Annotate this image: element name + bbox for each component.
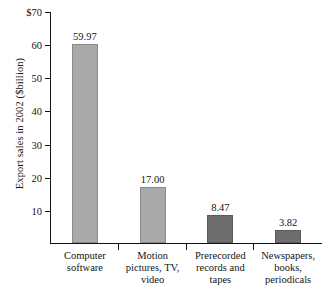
- category-labels: ComputersoftwareMotionpictures, TV,video…: [51, 250, 323, 297]
- bar-group[interactable]: 59.97: [51, 12, 119, 243]
- category-label-line: video: [119, 274, 187, 286]
- y-axis-tick-label: 10: [32, 205, 43, 216]
- category-label: Prerecordedrecords andtapes: [187, 250, 255, 287]
- category-label-line: Prerecorded: [187, 250, 255, 262]
- bar-value-label: 17.00: [141, 174, 165, 185]
- category-label-line: tapes: [187, 274, 255, 286]
- bar-value-label: 3.82: [279, 217, 297, 228]
- bar-chart: Export sales in 2002 ($billion) 10203040…: [0, 0, 325, 297]
- bars-layer: 59.9717.008.473.82: [51, 12, 322, 243]
- category-label-line: pictures, TV,: [119, 262, 187, 274]
- y-axis-tick-label: $70: [26, 7, 42, 18]
- category-label: Newspapers,books,periodicals: [254, 250, 322, 287]
- category-label-line: books,: [254, 262, 322, 274]
- category-label-line: Newspapers,: [254, 250, 322, 262]
- bar-group[interactable]: 8.47: [187, 12, 255, 243]
- bar-value-label: 8.47: [211, 202, 229, 213]
- bar-value-label: 59.97: [73, 31, 97, 42]
- y-axis-tick-label: 40: [32, 106, 43, 117]
- bar[interactable]: [207, 215, 233, 243]
- bar[interactable]: [275, 230, 301, 243]
- category-label-line: software: [51, 262, 119, 274]
- y-axis-tick-label: 20: [32, 172, 43, 183]
- category-label: Computersoftware: [51, 250, 119, 274]
- category-label-line: Motion: [119, 250, 187, 262]
- category-label: Motionpictures, TV,video: [119, 250, 187, 287]
- category-label-line: periodicals: [254, 274, 322, 286]
- bar[interactable]: [140, 187, 166, 243]
- y-axis-title: Export sales in 2002 ($billion): [14, 9, 25, 239]
- bar-group[interactable]: 17.00: [119, 12, 187, 243]
- y-axis-tick-label: 60: [32, 40, 43, 51]
- bar[interactable]: [72, 44, 98, 243]
- category-label-line: Computer: [51, 250, 119, 262]
- y-axis-tick-label: 50: [32, 73, 43, 84]
- bar-group[interactable]: 3.82: [254, 12, 322, 243]
- plot-area: 102030405060$70 59.9717.008.473.82: [50, 12, 322, 244]
- category-label-line: records and: [187, 262, 255, 274]
- y-axis-tick-label: 30: [32, 139, 43, 150]
